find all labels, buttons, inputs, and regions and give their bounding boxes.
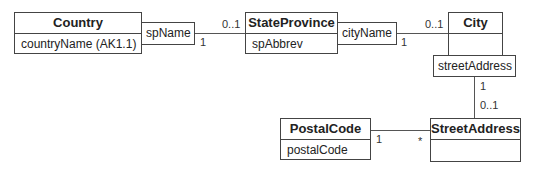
class-country: Country countryName (AK1.1)	[14, 12, 142, 54]
qualifier-cityname: cityName	[337, 22, 397, 45]
class-attribute: countryName (AK1.1)	[15, 34, 141, 54]
class-name: StreetAddress	[431, 119, 520, 140]
class-streetaddress: StreetAddress	[430, 118, 521, 162]
qualifier-streetaddress: streetAddress	[433, 55, 516, 77]
class-attribute: postalCode	[281, 140, 370, 160]
class-attribute	[449, 34, 502, 54]
association-line-stateprovince-city	[397, 33, 448, 34]
class-postalcode: PostalCode postalCode	[280, 118, 371, 160]
class-attribute	[431, 140, 520, 160]
multiplicity: 0..1	[222, 18, 240, 30]
class-name: Country	[15, 13, 141, 34]
multiplicity: 1	[480, 80, 486, 92]
multiplicity: 0..1	[425, 18, 443, 30]
association-line-city-streetaddress	[474, 77, 475, 118]
multiplicity: *	[418, 135, 422, 147]
association-line-postalcode-streetaddress	[371, 130, 430, 131]
multiplicity: 1	[200, 36, 206, 48]
class-name: StateProvince	[246, 13, 337, 34]
class-city: City	[448, 12, 503, 58]
qualifier-spname: spName	[141, 22, 195, 45]
class-attribute: spAbbrev	[246, 34, 337, 54]
class-name: City	[449, 13, 502, 34]
multiplicity: 1	[376, 133, 382, 145]
multiplicity: 1	[401, 36, 407, 48]
association-line-country-stateprovince	[195, 33, 245, 34]
class-name: PostalCode	[281, 119, 370, 140]
multiplicity: 0..1	[480, 99, 498, 111]
class-stateprovince: StateProvince spAbbrev	[245, 12, 338, 54]
